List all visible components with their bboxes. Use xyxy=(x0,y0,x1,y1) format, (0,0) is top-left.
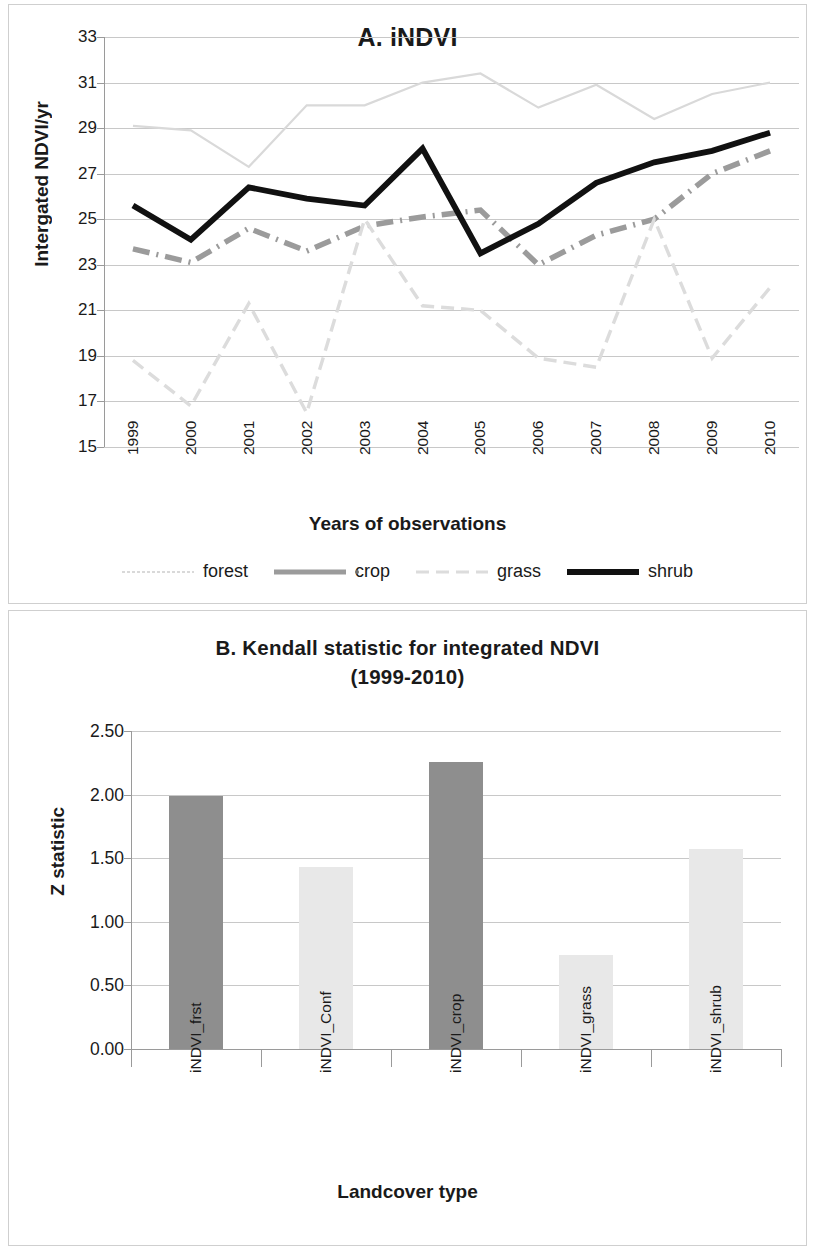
chart-b-x-tick-mark xyxy=(651,1049,652,1067)
chart-a-y-tick-mark xyxy=(97,37,104,38)
chart-b-y-tick-label: 0.50 xyxy=(90,975,124,996)
chart-b-y-tick-label: 1.00 xyxy=(90,911,124,932)
chart-a-y-tick-label: 17 xyxy=(78,391,97,411)
legend-label-grass: grass xyxy=(497,561,541,582)
figure-page: A. iNDVI Intergated NDVI/yr 333129272523… xyxy=(0,0,815,1252)
chart-b-x-tick-mark xyxy=(261,1049,262,1067)
chart-b-y-tick-mark xyxy=(124,1049,131,1050)
chart-b-x-tick-label: iNDVI_Conf xyxy=(317,991,335,1073)
chart-a-y-tick-label: 21 xyxy=(78,300,97,320)
chart-b-y-tick-label: 2.00 xyxy=(90,784,124,805)
legend-item-grass[interactable]: grass xyxy=(416,561,541,582)
chart-b-y-tick-label: 1.50 xyxy=(90,848,124,869)
legend-swatch-crop-icon xyxy=(274,565,346,579)
chart-a-y-tick-mark xyxy=(97,447,104,448)
chart-a-y-tick-mark xyxy=(97,174,104,175)
panel-a-indvi-line-chart: A. iNDVI Intergated NDVI/yr 333129272523… xyxy=(8,4,807,604)
chart-a-y-tick-label: 33 xyxy=(78,27,97,47)
legend-label-shrub: shrub xyxy=(648,561,693,582)
chart-a-series-shrub xyxy=(133,133,770,254)
chart-b-x-tick-label: iNDVI_crop xyxy=(447,994,465,1073)
chart-b-x-tick-mark xyxy=(131,1049,132,1067)
chart-b-y-tick-mark xyxy=(124,922,131,923)
legend-item-forest[interactable]: forest xyxy=(122,561,248,582)
chart-b-x-tick-mark xyxy=(391,1049,392,1067)
chart-a-y-tick-label: 29 xyxy=(78,118,97,138)
chart-a-y-tick-label: 19 xyxy=(78,346,97,366)
chart-b-y-tick-mark xyxy=(124,731,131,732)
chart-b-x-tick-label: iNDVI_grass xyxy=(577,986,595,1073)
legend-label-crop: crop xyxy=(355,561,390,582)
chart-a-y-tick-label: 31 xyxy=(78,73,97,93)
chart-a-y-tick-mark xyxy=(97,265,104,266)
chart-b-y-axis-label: Z statistic xyxy=(47,807,69,896)
chart-a-legend: forest crop grass shrub xyxy=(9,561,806,582)
chart-a-y-tick-mark xyxy=(97,83,104,84)
chart-b-title: B. Kendall statistic for integrated NDVI… xyxy=(9,633,806,691)
chart-b-x-tick-mark xyxy=(521,1049,522,1067)
chart-a-series-forest xyxy=(133,73,770,166)
chart-a-y-tick-mark xyxy=(97,219,104,220)
legend-swatch-forest-icon xyxy=(122,565,194,579)
chart-a-x-axis-label: Years of observations xyxy=(9,513,806,535)
chart-a-series-grass xyxy=(133,219,770,413)
chart-a-y-tick-mark xyxy=(97,356,104,357)
chart-b-title-line1: B. Kendall statistic for integrated NDVI xyxy=(216,636,600,659)
chart-b-x-axis-label: Landcover type xyxy=(9,1181,806,1203)
chart-a-y-tick-mark xyxy=(97,128,104,129)
chart-b-x-tick-label: iNDVI_shrub xyxy=(707,985,725,1073)
chart-b-x-tick-mark xyxy=(781,1049,782,1067)
legend-item-shrub[interactable]: shrub xyxy=(567,561,693,582)
panel-b-kendall-bar-chart: B. Kendall statistic for integrated NDVI… xyxy=(8,610,807,1246)
chart-a-y-tick-label: 15 xyxy=(78,437,97,457)
chart-b-x-tick-label: iNDVI_frst xyxy=(187,1002,205,1073)
chart-a-y-tick-label: 23 xyxy=(78,255,97,275)
legend-item-crop[interactable]: crop xyxy=(274,561,390,582)
chart-a-plot-area: 3331292725232119171519992000200120022003… xyxy=(104,37,799,447)
chart-b-y-tick-label: 2.50 xyxy=(90,721,124,742)
chart-a-y-tick-label: 27 xyxy=(78,164,97,184)
chart-b-y-tick-label: 0.00 xyxy=(90,1039,124,1060)
chart-a-y-axis-label: Intergated NDVI/yr xyxy=(31,101,53,267)
chart-b-gridline xyxy=(131,731,781,732)
legend-swatch-grass-icon xyxy=(416,565,488,579)
chart-b-y-tick-mark xyxy=(124,858,131,859)
chart-b-title-line2: (1999-2010) xyxy=(351,665,465,688)
chart-b-y-axis-line xyxy=(131,731,132,1049)
chart-b-plot-area: 2.502.001.501.000.500.00iNDVI_frstiNDVI_… xyxy=(131,731,781,1049)
chart-a-y-tick-mark xyxy=(97,310,104,311)
chart-a-y-tick-mark xyxy=(97,401,104,402)
chart-a-gridline xyxy=(104,447,799,448)
chart-b-y-tick-mark xyxy=(124,795,131,796)
legend-swatch-shrub-icon xyxy=(567,565,639,579)
legend-label-forest: forest xyxy=(203,561,248,582)
chart-a-y-tick-label: 25 xyxy=(78,209,97,229)
chart-b-y-tick-mark xyxy=(124,985,131,986)
chart-a-series-layer xyxy=(104,37,799,447)
